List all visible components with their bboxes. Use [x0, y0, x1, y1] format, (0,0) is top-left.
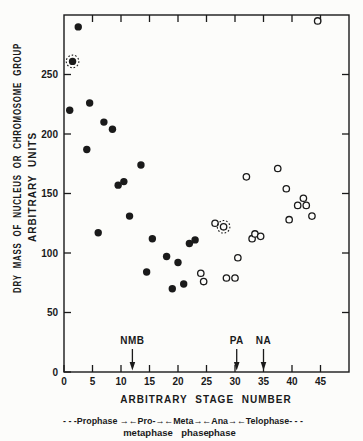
phase-scale-sublabel: metaphase [123, 427, 173, 438]
data-point-filled [120, 178, 127, 185]
y-tick-label: 150 [41, 188, 58, 199]
x-tick-label: 30 [229, 376, 241, 387]
x-tick-label: 25 [201, 376, 213, 387]
x-tick-label: 40 [286, 376, 298, 387]
x-tick-label: 35 [258, 376, 270, 387]
stage-marker-label: NMB [120, 335, 144, 346]
data-point-filled [100, 118, 107, 125]
y-axis-label-line2: ARBITRARY UNITS [27, 132, 38, 242]
stage-marker-label: NA [256, 335, 271, 346]
data-point-filled [69, 58, 76, 65]
data-point-open [220, 224, 226, 230]
y-tick-label: 250 [41, 69, 58, 80]
data-point-open [243, 174, 249, 180]
phase-scale-sublabels: metaphasephasephase [123, 427, 236, 438]
scatter-plot: 051015202530354045050100150200250 NMBPAN… [0, 0, 363, 441]
data-point-filled [143, 268, 150, 275]
data-point-filled [169, 285, 176, 292]
data-point-filled [149, 235, 156, 242]
stage-markers: NMBPANA [120, 335, 271, 371]
y-tick-label: 50 [47, 307, 59, 318]
data-point-filled [174, 259, 181, 266]
data-point-filled [66, 107, 73, 114]
data-point-open [286, 216, 292, 222]
y-tick-label: 200 [41, 129, 58, 140]
phase-scale-sublabel: phase [181, 427, 208, 438]
x-tick-label: 0 [61, 376, 67, 387]
x-tick-label: 45 [315, 376, 327, 387]
y-tick-label: 100 [41, 248, 58, 259]
data-point-open [232, 275, 238, 281]
figure: 051015202530354045050100150200250 NMBPAN… [0, 0, 363, 441]
data-point-open [257, 233, 263, 239]
data-point-open [235, 255, 241, 261]
axis-ticks [64, 15, 349, 372]
data-point-filled [137, 161, 144, 168]
data-point-filled [95, 229, 102, 236]
phase-scale-line: - - -Prophase →←Pro-→←Meta→←Ana→←Telopha… [63, 415, 303, 426]
data-point-filled [83, 146, 90, 153]
data-point-open [314, 18, 320, 24]
y-axis-label-line1: DRY MASS OF NUCLEUS OR CHROMOSOME GROUP [12, 43, 23, 293]
stage-marker-arrow-head [130, 362, 136, 371]
y-tick-label: 0 [52, 367, 58, 378]
data-point-filled [163, 253, 170, 260]
data-point-open [283, 186, 289, 192]
data-point-filled [180, 280, 187, 287]
data-points [66, 18, 321, 293]
data-point-filled [75, 23, 82, 30]
data-point-open [200, 278, 206, 284]
data-point-open [275, 165, 281, 171]
plot-frame [64, 15, 349, 372]
data-point-open [295, 202, 301, 208]
x-tick-label: 15 [144, 376, 156, 387]
phase-scale-sublabel: phase [208, 427, 235, 438]
stage-marker-label: PA [230, 335, 244, 346]
x-tick-label: 20 [172, 376, 184, 387]
stage-marker-arrow-head [261, 362, 267, 371]
x-tick-label: 10 [115, 376, 127, 387]
data-point-filled [191, 236, 198, 243]
data-point-open [198, 270, 204, 276]
data-point-open [212, 220, 218, 226]
data-point-filled [86, 99, 93, 106]
data-point-open [300, 195, 306, 201]
data-point-open [309, 213, 315, 219]
data-point-open [303, 202, 309, 208]
data-point-filled [109, 126, 116, 133]
plot-border [64, 15, 349, 372]
x-tick-label: 5 [90, 376, 96, 387]
axis-tick-labels: 051015202530354045050100150200250 [41, 69, 326, 387]
data-point-open [223, 275, 229, 281]
x-axis-label: ARBITRARY STAGE NUMBER [120, 394, 291, 405]
data-point-filled [126, 212, 133, 219]
